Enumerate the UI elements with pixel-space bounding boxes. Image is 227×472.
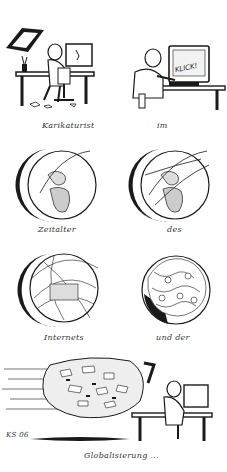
- panel-globe-internets: Internets: [14, 248, 109, 343]
- caption-des: des: [167, 225, 182, 234]
- caption-und-der: und der: [156, 333, 190, 342]
- globe-illustration: [10, 145, 105, 225]
- panel-globe-und-der: und der: [128, 248, 223, 343]
- panel-cartoonist-clicking: KLICK! im: [117, 0, 227, 118]
- panel-globe-zeitalter: Zeitalter: [10, 145, 105, 235]
- panel-cartoonist-drawing: Karikaturist: [0, 0, 110, 118]
- caption-globalisierung: Globalisierung ...: [84, 451, 159, 460]
- panel-globalisierung: KS 06 Globalisierung ...: [0, 355, 227, 472]
- caption-internets: Internets: [44, 333, 84, 342]
- globe-illustration: [14, 248, 109, 328]
- cartoonist-drawing-illustration: [0, 0, 110, 118]
- signature: KS 06: [6, 431, 29, 439]
- caption-im: im: [157, 121, 168, 130]
- caption-karikaturist: Karikaturist: [42, 121, 94, 130]
- globe-illustration: [128, 248, 223, 328]
- panel-globe-des: des: [125, 145, 220, 235]
- globe-illustration: [125, 145, 220, 225]
- paper-flood-illustration: [0, 355, 227, 445]
- cartoonist-clicking-illustration: KLICK!: [117, 0, 227, 118]
- caption-zeitalter: Zeitalter: [38, 225, 76, 234]
